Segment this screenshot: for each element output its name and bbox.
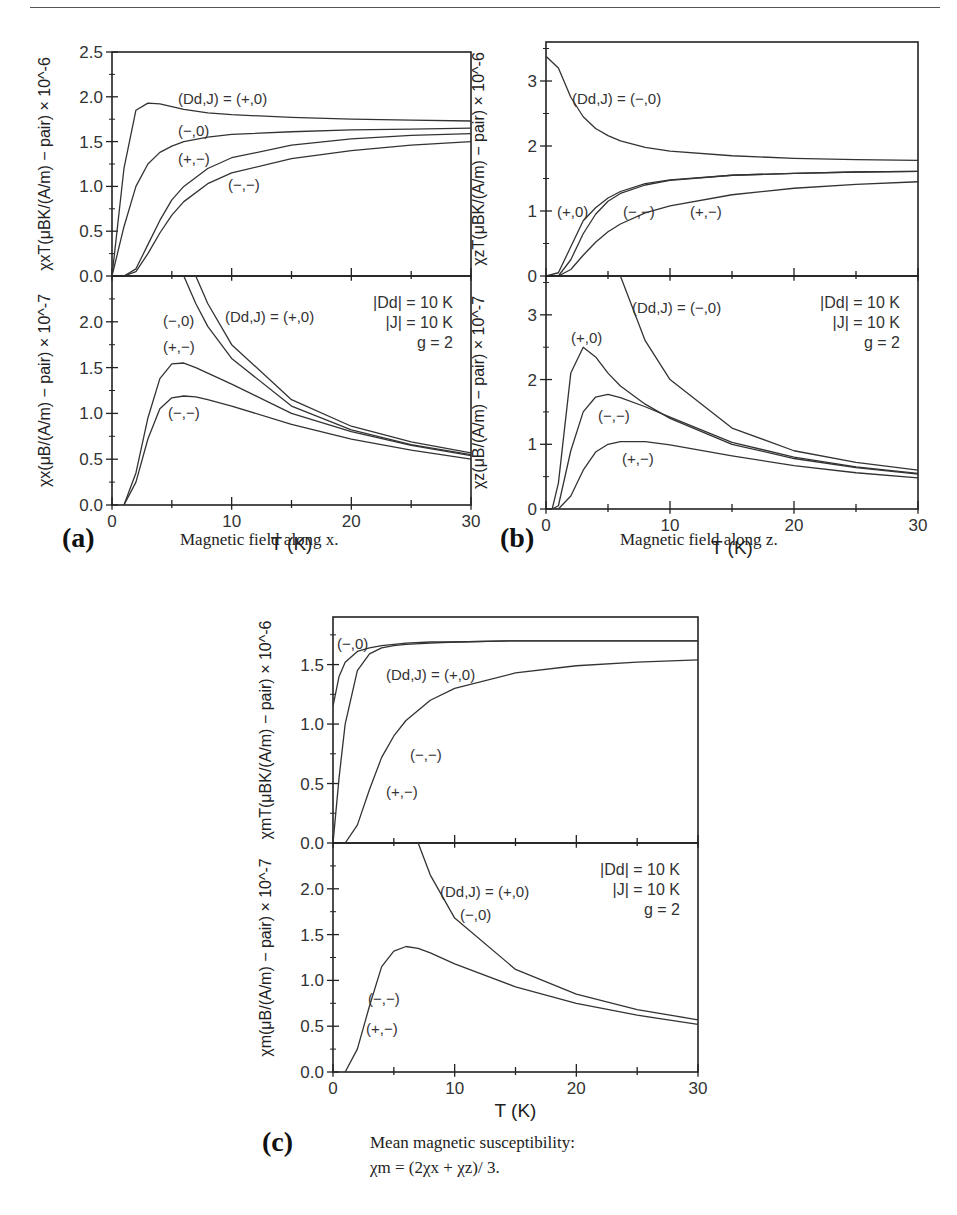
series-line bbox=[616, 256, 918, 470]
panel-label-a: (a) bbox=[62, 522, 95, 554]
svg-text:1.5: 1.5 bbox=[79, 359, 103, 378]
svg-text:0.0: 0.0 bbox=[79, 496, 103, 515]
parameter-label: g = 2 bbox=[864, 334, 900, 351]
series-line bbox=[180, 256, 471, 455]
svg-text:20: 20 bbox=[342, 512, 361, 531]
series-label: (+,0) bbox=[571, 329, 602, 346]
series-label: (+,−) bbox=[366, 1020, 398, 1037]
series-label: (−,0) bbox=[460, 906, 491, 923]
y-axis-label: χz(μB/(A/m) − pair) × 10^-7 bbox=[470, 296, 487, 489]
series-line bbox=[192, 256, 471, 453]
svg-text:20: 20 bbox=[785, 516, 804, 535]
svg-text:1.5: 1.5 bbox=[300, 656, 324, 675]
x-axis-label: T (K) bbox=[495, 1100, 537, 1121]
series-label: (−,0) bbox=[163, 312, 194, 329]
svg-text:1.0: 1.0 bbox=[300, 715, 324, 734]
series-label: (−,−) bbox=[168, 404, 200, 421]
svg-text:0: 0 bbox=[541, 516, 550, 535]
y-axis-label: χmT(μBK/(A/m) − pair) × 10^-6 bbox=[257, 620, 274, 839]
svg-text:3: 3 bbox=[528, 72, 537, 91]
series-label: (−,−) bbox=[228, 176, 260, 193]
parameter-label: |J| = 10 K bbox=[386, 314, 454, 331]
svg-text:1.0: 1.0 bbox=[79, 177, 103, 196]
svg-text:3: 3 bbox=[528, 306, 537, 325]
y-axis-label: χx(μB/(A/m) − pair) × 10^-7 bbox=[36, 294, 53, 487]
panel-label-b: (b) bbox=[500, 522, 534, 554]
y-axis-label: χzT(μBK/(A/m) − pair) × 10^-6 bbox=[470, 52, 487, 266]
svg-text:2.0: 2.0 bbox=[79, 313, 103, 332]
svg-text:1.5: 1.5 bbox=[79, 133, 103, 152]
svg-text:0.5: 0.5 bbox=[79, 450, 103, 469]
parameter-label: g = 2 bbox=[644, 901, 680, 918]
series-label: (+,−) bbox=[690, 203, 722, 220]
panel-caption-a: Magnetic field along x. bbox=[180, 530, 339, 550]
series-label: (−,−) bbox=[598, 407, 630, 424]
figure-canvas: 0.00.51.01.52.02.5(Dd,J) = (+,0)(−,0)(+,… bbox=[0, 0, 957, 1215]
svg-text:0.0: 0.0 bbox=[79, 267, 103, 286]
parameter-label: |Dd| = 10 K bbox=[600, 861, 680, 878]
panel-caption-c: Mean magnetic susceptibility: bbox=[370, 1133, 575, 1153]
series-label: (+,−) bbox=[386, 783, 418, 800]
series-line bbox=[546, 182, 918, 276]
series-label: (+,−) bbox=[178, 150, 210, 167]
svg-text:10: 10 bbox=[222, 512, 241, 531]
panel-caption-b: Magnetic field along z. bbox=[620, 530, 778, 550]
panel-label-c: (c) bbox=[262, 1126, 293, 1158]
series-line bbox=[414, 823, 698, 1020]
series-label: (Dd,J) = (+,0) bbox=[386, 666, 475, 683]
series-label: (−,0) bbox=[337, 635, 368, 652]
parameter-label: |Dd| = 10 K bbox=[373, 294, 453, 311]
svg-text:0.5: 0.5 bbox=[300, 775, 324, 794]
svg-text:1: 1 bbox=[528, 435, 537, 454]
series-label: (Dd,J) = (−,0) bbox=[632, 299, 721, 316]
series-label: (Dd,J) = (+,0) bbox=[178, 90, 267, 107]
svg-text:0.5: 0.5 bbox=[300, 1017, 324, 1036]
svg-text:2: 2 bbox=[528, 137, 537, 156]
series-line bbox=[112, 134, 471, 276]
series-label: (−,−) bbox=[368, 990, 400, 1007]
svg-text:1.0: 1.0 bbox=[79, 404, 103, 423]
plot-a-bottom: 01020300.00.51.01.52.0(Dd,J) = (+,0)(−,0… bbox=[36, 256, 480, 554]
svg-text:0: 0 bbox=[328, 1079, 337, 1098]
plot-b-top: 0123(Dd,J) = (−,0)(+,0)(−,−)(+,−)χzT(μBK… bbox=[470, 42, 918, 286]
svg-text:1.0: 1.0 bbox=[300, 971, 324, 990]
series-line bbox=[546, 171, 918, 276]
svg-text:30: 30 bbox=[909, 516, 928, 535]
plot-a-top: 0.00.51.01.52.02.5(Dd,J) = (+,0)(−,0)(+,… bbox=[36, 43, 471, 286]
series-label: (Dd,J) = (+,0) bbox=[440, 883, 529, 900]
svg-text:2.5: 2.5 bbox=[79, 43, 103, 62]
series-line bbox=[112, 142, 471, 276]
parameter-label: g = 2 bbox=[417, 334, 453, 351]
svg-text:2.0: 2.0 bbox=[300, 880, 324, 899]
svg-text:0.5: 0.5 bbox=[79, 222, 103, 241]
series-label: (−,−) bbox=[410, 746, 442, 763]
y-axis-label: χm(μB/(A/m) − pair) × 10^-7 bbox=[257, 858, 274, 1057]
plot-c-top: 0.00.51.01.5(−,0)(Dd,J) = (+,0)(−,−)(+,−… bbox=[257, 617, 698, 853]
svg-text:2: 2 bbox=[528, 371, 537, 390]
svg-text:1.5: 1.5 bbox=[300, 926, 324, 945]
svg-text:0: 0 bbox=[528, 500, 537, 519]
parameter-label: |Dd| = 10 K bbox=[820, 294, 900, 311]
series-label: (−,0) bbox=[178, 122, 209, 139]
series-line bbox=[112, 128, 471, 276]
series-line bbox=[124, 363, 471, 505]
series-line bbox=[345, 947, 698, 1072]
series-line bbox=[546, 171, 918, 276]
series-label: (+,0) bbox=[557, 203, 588, 220]
plot-b-bottom: 01020300123(Dd,J) = (−,0)(+,0)(−,−)(+,−)… bbox=[470, 256, 927, 558]
series-line bbox=[552, 347, 918, 509]
series-label: (+,−) bbox=[163, 338, 195, 355]
series-line bbox=[333, 660, 698, 843]
parameter-label: |J| = 10 K bbox=[833, 314, 901, 331]
svg-text:0: 0 bbox=[528, 267, 537, 286]
parameter-label: |J| = 10 K bbox=[613, 881, 681, 898]
svg-text:1: 1 bbox=[528, 202, 537, 221]
svg-text:30: 30 bbox=[689, 1079, 708, 1098]
svg-text:0: 0 bbox=[107, 512, 116, 531]
svg-text:10: 10 bbox=[445, 1079, 464, 1098]
series-label: (−,−) bbox=[623, 203, 655, 220]
plot-c-bottom: 01020300.00.51.01.52.0(Dd,J) = (+,0)(−,−… bbox=[257, 823, 707, 1121]
series-label: (+,−) bbox=[622, 450, 654, 467]
series-line bbox=[546, 56, 918, 160]
svg-text:2.0: 2.0 bbox=[79, 88, 103, 107]
